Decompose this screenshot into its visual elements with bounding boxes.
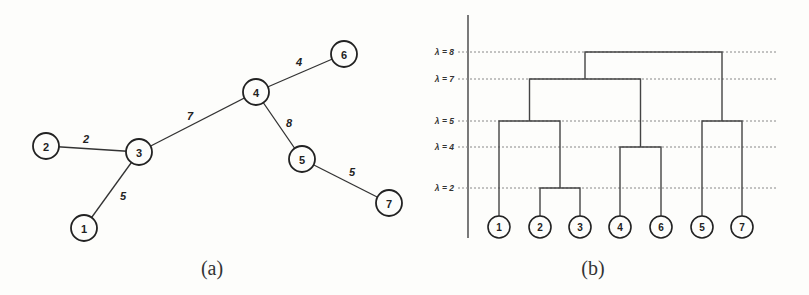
leaf-label: 1 [496, 222, 502, 233]
merge-link [620, 147, 661, 216]
tree-node: 2 [33, 133, 59, 159]
node-label: 7 [386, 198, 392, 210]
tree-edges [46, 54, 389, 228]
leaf-node: 2 [529, 216, 551, 238]
merge-link [702, 121, 742, 216]
tree-node: 3 [126, 139, 152, 165]
leaf-node: 6 [650, 216, 672, 238]
lambda-label: λ = 2 [434, 183, 454, 193]
lambda-label: λ = 4 [434, 142, 454, 152]
node-label: 4 [253, 87, 260, 99]
node-label: 1 [81, 223, 87, 235]
tree-edge [84, 152, 139, 228]
leaf-label: 6 [658, 222, 664, 233]
tree-node: 6 [331, 41, 357, 67]
dendrogram-leaves: 1234657 [488, 216, 753, 238]
edge-weight-label: 5 [349, 166, 356, 178]
lambda-label: λ = 8 [434, 47, 454, 57]
node-label: 3 [136, 147, 142, 159]
leaf-label: 3 [577, 222, 583, 233]
tree-edge [302, 159, 389, 203]
dendrogram-links [499, 52, 742, 216]
node-label: 5 [299, 154, 305, 166]
leaf-label: 4 [617, 222, 623, 233]
leaf-node: 1 [488, 216, 510, 238]
leaf-label: 2 [537, 222, 543, 233]
leaf-label: 5 [699, 222, 705, 233]
merge-link [585, 52, 722, 121]
edge-weight-label: 8 [286, 117, 293, 129]
edge-weight-label: 2 [82, 133, 89, 145]
dendrogram: λ = 8λ = 7λ = 5λ = 4λ = 2 1234657 (b) [434, 15, 778, 280]
node-label: 2 [43, 141, 49, 153]
tree-node: 4 [243, 79, 269, 105]
edge-weight-label: 7 [187, 110, 194, 122]
merge-link [499, 121, 560, 216]
lambda-levels: λ = 8λ = 7λ = 5λ = 4λ = 2 [434, 47, 778, 193]
edge-weight-label: 5 [120, 190, 127, 202]
leaf-node: 4 [609, 216, 631, 238]
tree-node: 7 [376, 190, 402, 216]
edge-weight-label: 4 [295, 56, 302, 68]
caption-a: (a) [201, 257, 223, 280]
merge-link [540, 188, 580, 216]
caption-b: (b) [581, 257, 604, 280]
weighted-tree-graph: 257485 1234567 (a) [33, 41, 402, 280]
tree-edge [46, 146, 139, 152]
tree-edge [139, 92, 256, 152]
node-label: 6 [341, 49, 347, 61]
merge-link [530, 79, 641, 147]
leaf-label: 7 [739, 222, 745, 233]
tree-node: 1 [71, 215, 97, 241]
lambda-label: λ = 7 [434, 74, 455, 84]
leaf-node: 3 [569, 216, 591, 238]
edge-weight-labels: 257485 [82, 56, 356, 202]
tree-node: 5 [289, 146, 315, 172]
figure-canvas: 257485 1234567 (a) λ = 8λ = 7λ = 5λ = 4λ… [0, 0, 809, 295]
leaf-node: 7 [731, 216, 753, 238]
lambda-label: λ = 5 [434, 116, 454, 126]
leaf-node: 5 [691, 216, 713, 238]
